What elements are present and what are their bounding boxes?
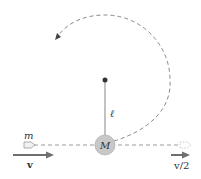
initial-velocity-label: v xyxy=(26,159,34,170)
bob-mass-label: M xyxy=(99,140,111,151)
arrowhead-icon xyxy=(182,152,190,159)
final-velocity-arrow xyxy=(171,152,190,159)
circular-path xyxy=(55,15,170,141)
final-velocity-label: v/2 xyxy=(173,160,189,171)
bullet-before xyxy=(24,142,35,148)
path-arrowhead-icon xyxy=(55,33,61,40)
bullet-mass-label: m xyxy=(24,130,33,141)
arrowhead-icon xyxy=(46,152,54,159)
ballistic-pendulum-diagram: m M ℓ v v/2 xyxy=(0,0,201,179)
rod-length-label: ℓ xyxy=(110,108,114,119)
bullet-after xyxy=(180,142,191,148)
pivot-point xyxy=(103,78,108,83)
initial-velocity-arrow xyxy=(13,152,54,159)
